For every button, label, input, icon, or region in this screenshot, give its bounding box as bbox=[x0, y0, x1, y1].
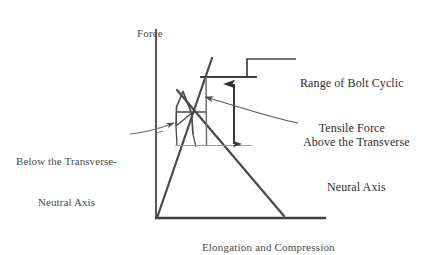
annotation-right-bottom-line1: Above the Transverse bbox=[303, 135, 410, 150]
x-axis-label: Elongation and Compression bbox=[196, 227, 335, 255]
annotation-right-top-line1: Range of Bolt Cyclic bbox=[300, 76, 404, 91]
annotation-above-transverse-neural-axis: Above the Transverse Neural Axis bbox=[303, 105, 410, 210]
y-axis-label: Force bbox=[131, 13, 163, 41]
falling-unloading-line bbox=[177, 90, 284, 216]
rising-loading-line bbox=[157, 58, 212, 218]
annotation-left-line2: Neutral Axis bbox=[16, 196, 117, 210]
annotation-right-bottom-line2: Neural Axis bbox=[303, 180, 410, 195]
x-axis-label-text: Elongation and Compression bbox=[202, 241, 335, 253]
y-axis-label-text: Force bbox=[137, 27, 163, 39]
annotation-below-transverse-neutral-axis: Below the Transverse- Neutral Axis bbox=[16, 127, 117, 223]
annotation-left-line1: Below the Transverse- bbox=[16, 155, 117, 169]
bolt-force-riser bbox=[206, 77, 207, 145]
below-axis-leader-line bbox=[130, 123, 174, 134]
range-leader-line bbox=[247, 59, 296, 78]
above-axis-leader-line bbox=[205, 97, 298, 123]
